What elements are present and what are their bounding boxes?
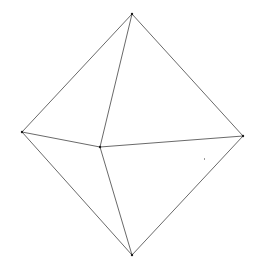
edges-group bbox=[22, 14, 243, 255]
edge-right-bottom bbox=[132, 136, 243, 255]
edge-top-front bbox=[100, 14, 132, 147]
edge-front-right bbox=[100, 136, 243, 147]
edge-top-left bbox=[22, 14, 132, 132]
edge-top-right bbox=[132, 14, 243, 136]
vertex-right bbox=[242, 135, 244, 137]
vertex-front bbox=[99, 146, 101, 148]
speck-mark bbox=[204, 158, 205, 160]
vertex-left bbox=[21, 131, 23, 133]
specks-group bbox=[204, 158, 205, 160]
edge-left-bottom bbox=[22, 132, 132, 255]
edge-front-bottom bbox=[100, 147, 132, 255]
vertices-group bbox=[21, 13, 244, 256]
vertex-bottom bbox=[131, 254, 133, 256]
octahedron-diagram bbox=[0, 0, 256, 270]
vertex-top bbox=[131, 13, 133, 15]
